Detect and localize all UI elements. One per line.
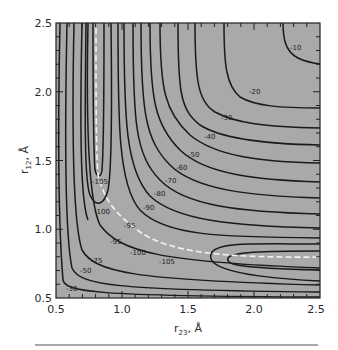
svg-text:-30: -30 xyxy=(221,114,232,122)
svg-text:-100: -100 xyxy=(94,208,110,216)
potential-energy-contour-chart: -10 -20 -30 -40 -50 -60 -70 -80 -90 -105… xyxy=(0,0,338,350)
svg-text:-105: -105 xyxy=(92,178,108,186)
svg-text:2.0: 2.0 xyxy=(35,86,53,99)
svg-text:-70: -70 xyxy=(165,177,176,185)
svg-text:-95: -95 xyxy=(110,238,121,246)
svg-text:-30: -30 xyxy=(66,285,77,293)
svg-text:-10: -10 xyxy=(290,44,301,52)
svg-text:-60: -60 xyxy=(176,164,187,172)
svg-text:1.0: 1.0 xyxy=(113,303,131,316)
svg-text:1.5: 1.5 xyxy=(35,155,53,168)
x-tick-labels: 0.5 1.0 1.5 2.0 2.5 xyxy=(47,303,325,316)
y-axis-title: r12, Å xyxy=(18,146,33,174)
svg-text:1.5: 1.5 xyxy=(179,303,197,316)
svg-text:0.5: 0.5 xyxy=(35,292,53,305)
svg-text:-100: -100 xyxy=(130,249,146,257)
svg-text:-50: -50 xyxy=(80,267,91,275)
y-tick-labels: 0.5 1.0 1.5 2.0 2.5 xyxy=(35,17,53,305)
svg-text:-105: -105 xyxy=(159,258,175,266)
svg-text:-80: -80 xyxy=(154,190,165,198)
svg-text:1.0: 1.0 xyxy=(35,223,53,236)
svg-text:-40: -40 xyxy=(204,133,215,141)
svg-text:2.5: 2.5 xyxy=(35,17,53,30)
svg-text:2.0: 2.0 xyxy=(245,303,263,316)
svg-text:-95: -95 xyxy=(124,222,135,230)
svg-text:2.5: 2.5 xyxy=(307,303,325,316)
x-axis-title: r23, Å xyxy=(174,322,202,337)
svg-text:-90: -90 xyxy=(143,204,154,212)
svg-text:-75: -75 xyxy=(91,257,102,265)
svg-text:-50: -50 xyxy=(188,151,199,159)
svg-text:-20: -20 xyxy=(249,88,260,96)
